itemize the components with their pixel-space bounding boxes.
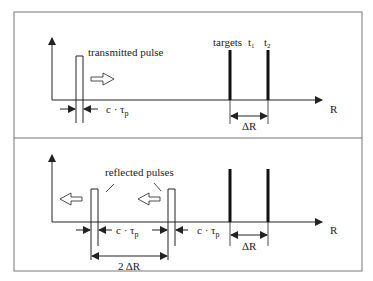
- reflected-pulse-1: [91, 189, 98, 260]
- transmitted-pulse-label: transmitted pulse: [88, 46, 164, 58]
- left-arrow-icon-1: [60, 193, 82, 205]
- reflected-pulse-2: [168, 189, 175, 260]
- delta-r-label: ΔR: [242, 120, 257, 132]
- radar-diagram: R transmitted pulse c · τp targets t1 t2…: [0, 0, 373, 281]
- two-delta-r-label: 2 ΔR: [118, 260, 141, 272]
- r-axis-label: R: [330, 224, 338, 236]
- leader-line-2: [154, 183, 161, 191]
- transmitted-pulse: [76, 56, 83, 123]
- r-axis-label: R: [330, 103, 338, 115]
- targets-label: targets: [213, 36, 242, 48]
- leader-line-1: [106, 184, 114, 192]
- pulse-width-label-2: c · τp: [197, 224, 219, 239]
- reflected-pulses-label: reflected pulses: [105, 166, 174, 178]
- pulse-width-label-1: c · τp: [116, 224, 138, 239]
- delta-r-label: ΔR: [242, 240, 257, 252]
- right-arrow-icon: [91, 73, 114, 85]
- pulse-width-label: c · τp: [106, 103, 128, 118]
- frame: [14, 12, 362, 271]
- target-1-label: t1: [248, 36, 255, 50]
- target-2-label: t2: [264, 36, 271, 50]
- left-arrow-icon-2: [138, 193, 160, 205]
- bottom-panel: R reflected pulses c · τp c · τp 2 ΔR: [52, 155, 338, 272]
- top-panel: R transmitted pulse c · τp targets t1 t2…: [52, 36, 338, 132]
